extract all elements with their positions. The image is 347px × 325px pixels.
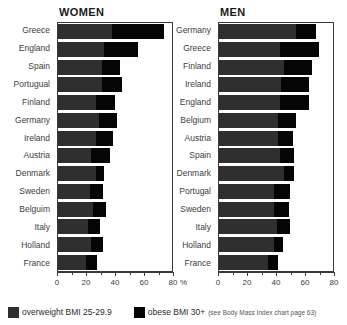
bar-row (58, 184, 172, 199)
country-label: Spain (0, 59, 54, 74)
legend-note: (see Body Mass Index chart page 63) (208, 309, 316, 316)
bar-row (219, 42, 333, 57)
country-label: Denmark (0, 166, 54, 181)
axis-tick-label: 80 (330, 278, 339, 287)
bar-row (219, 184, 333, 199)
country-label: Germany (0, 113, 54, 128)
axis-tick (262, 272, 263, 275)
bar-row (219, 219, 333, 234)
bar-segment-obese (284, 166, 294, 181)
bar-segment-obese (90, 184, 103, 199)
bar-segment-obese (296, 24, 316, 39)
bar-segment-obese (274, 184, 290, 199)
bar-segment-overweight (219, 184, 274, 199)
country-label: Portugal (176, 184, 215, 199)
axis-tick (320, 272, 321, 275)
axis-tick (247, 272, 248, 276)
country-label: Holland (0, 238, 54, 253)
bar-segment-overweight (58, 60, 102, 75)
bar-segment-obese (284, 60, 312, 75)
country-label: Portugual (0, 77, 54, 92)
bar-segment-obese (280, 148, 295, 163)
bar-segment-overweight (219, 131, 278, 146)
bar-segment-obese (278, 113, 295, 128)
bar-segment-overweight (58, 255, 86, 270)
panel-title-women: WOMEN (59, 6, 104, 18)
plot-area-men (218, 22, 334, 272)
bar-segment-obese (274, 202, 289, 217)
country-label: Belgium (176, 113, 215, 128)
bar-segment-obese (91, 148, 110, 163)
country-labels-women: GreeceEnglandSpainPortugualFinlandGerman… (0, 22, 54, 272)
legend-swatch-obese-icon (134, 307, 145, 318)
bar-rows-men (219, 23, 333, 271)
bar-row (219, 202, 333, 217)
country-label: Finland (176, 59, 215, 74)
country-label: Austria (176, 131, 215, 146)
bar-segment-obese (99, 113, 118, 128)
axis-tick (57, 272, 58, 276)
bar-segment-overweight (58, 202, 93, 217)
bar-row (58, 131, 172, 146)
bar-segment-overweight (219, 202, 274, 217)
country-label: Finland (0, 95, 54, 110)
bar-row (58, 42, 172, 57)
bar-row (219, 131, 333, 146)
plot-area-women (57, 22, 173, 272)
axis-tick (86, 272, 87, 276)
axis-tick (144, 272, 145, 276)
bar-segment-overweight (58, 95, 96, 110)
axis-tick (115, 272, 116, 276)
bar-row (58, 60, 172, 75)
country-label: Sweden (0, 184, 54, 199)
obesity-bar-chart-figure: WOMEN GreeceEnglandSpainPortugualFinland… (0, 0, 347, 325)
country-label: England (0, 41, 54, 56)
axis-tick (218, 272, 219, 276)
bar-segment-overweight (58, 42, 104, 57)
axis-tick (233, 272, 234, 275)
chart-panels: WOMEN GreeceEnglandSpainPortugualFinland… (0, 0, 347, 296)
country-label: Belguim (0, 202, 54, 217)
legend-item-overweight: overweight BMI 25-29.9 (8, 307, 112, 318)
bar-row (58, 202, 172, 217)
bar-segment-obese (112, 24, 164, 39)
country-label: Sweden (176, 202, 215, 217)
bar-row (219, 77, 333, 92)
bar-rows-women (58, 23, 172, 271)
bar-segment-obese (102, 60, 121, 75)
bar-segment-obese (86, 255, 98, 270)
bar-segment-obese (280, 42, 319, 57)
bar-segment-overweight (58, 113, 99, 128)
country-label: France (176, 256, 215, 271)
bar-row (58, 166, 172, 181)
bar-segment-overweight (219, 219, 277, 234)
bar-row (219, 24, 333, 39)
bar-row (58, 219, 172, 234)
bar-segment-overweight (58, 77, 102, 92)
bar-row (58, 237, 172, 252)
bar-segment-obese (96, 131, 113, 146)
bar-segment-overweight (58, 166, 96, 181)
bar-segment-overweight (219, 60, 284, 75)
axis-tick (101, 272, 102, 275)
legend-label-obese: obese BMI 30+ (148, 307, 205, 317)
country-label: Italy (176, 220, 215, 235)
axis-tick-label: 20 (243, 278, 252, 287)
panel-women: WOMEN GreeceEnglandSpainPortugualFinland… (0, 0, 176, 296)
bar-row (58, 95, 172, 110)
bar-segment-obese (93, 202, 106, 217)
bar-segment-obese (278, 131, 293, 146)
bar-row (219, 255, 333, 270)
axis-tick-label: 20 (82, 278, 91, 287)
bar-segment-overweight (219, 113, 278, 128)
bar-row (58, 113, 172, 128)
axis-tick (173, 272, 174, 276)
panel-title-men: MEN (220, 6, 246, 18)
country-label: Germany (176, 23, 215, 38)
country-label: Spain (176, 148, 215, 163)
bar-segment-obese (104, 42, 137, 57)
axis-tick (130, 272, 131, 275)
bar-segment-obese (102, 77, 122, 92)
bar-segment-overweight (58, 24, 112, 39)
x-axis-women: 020406080 (57, 272, 173, 294)
